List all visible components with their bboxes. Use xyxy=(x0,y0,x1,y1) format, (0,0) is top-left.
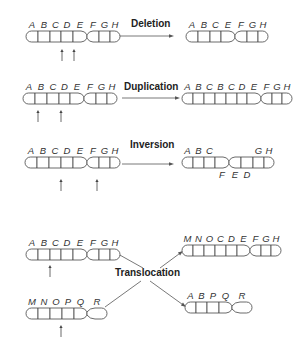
band-C: C xyxy=(210,19,221,42)
band-B: B xyxy=(215,81,226,104)
band-segment xyxy=(196,302,207,313)
band-segment xyxy=(110,31,120,42)
band-segment xyxy=(232,302,252,313)
band-segment xyxy=(61,31,73,42)
band-H: H xyxy=(107,81,117,104)
band-segment xyxy=(271,245,281,256)
band-E: E xyxy=(73,237,87,260)
band-C: C xyxy=(204,145,215,168)
breakpoint-arrow-icon xyxy=(72,49,75,61)
band-F: F xyxy=(87,237,99,260)
band-H: H xyxy=(271,233,281,256)
band-label: C xyxy=(217,233,224,244)
band-segment xyxy=(210,31,221,42)
band-A: A xyxy=(185,290,196,313)
band-label: R xyxy=(239,290,246,301)
band-segment xyxy=(61,249,73,260)
band-segment xyxy=(59,93,70,104)
band-G: G xyxy=(261,233,271,256)
band-D: D xyxy=(237,81,247,104)
band-B: B xyxy=(37,145,49,168)
band-F: F xyxy=(235,19,247,42)
band-D: D xyxy=(59,81,70,104)
duplication-label: Duplication xyxy=(124,81,178,92)
deletion-label: Deletion xyxy=(131,18,170,29)
band-segment xyxy=(193,245,204,256)
band-D: D xyxy=(61,237,73,260)
band-label: D xyxy=(228,233,235,244)
band-segment xyxy=(50,31,61,42)
band-label: E xyxy=(77,145,84,156)
band-segment xyxy=(99,157,110,168)
arrow-icon xyxy=(122,162,174,166)
band-label: Q xyxy=(222,290,230,301)
band-A: A xyxy=(25,145,37,168)
band-label: E xyxy=(251,81,258,92)
band-segment xyxy=(38,249,50,260)
band-segment xyxy=(73,31,87,42)
band-segment xyxy=(182,93,193,104)
band-segment xyxy=(47,93,59,104)
band-label: P xyxy=(210,290,217,301)
band-label: B xyxy=(41,237,48,248)
band-segment xyxy=(247,93,261,104)
band-segment xyxy=(215,245,226,256)
band-label: E xyxy=(74,81,81,92)
band-segment xyxy=(182,245,193,256)
band-label: F xyxy=(264,81,271,92)
band-label: G xyxy=(273,81,280,92)
band-G: G xyxy=(96,81,107,104)
breakpoint-arrow-icon xyxy=(60,49,63,61)
band-label: F xyxy=(87,81,94,92)
band-segment xyxy=(204,93,215,104)
band-segment xyxy=(185,302,196,313)
band-label: M xyxy=(28,296,36,307)
breakpoint-arrow-icon xyxy=(48,265,51,277)
chromosome-translocation-result-1: MNOCDEFGH xyxy=(182,233,281,256)
band-label: G xyxy=(262,233,269,244)
band-B: B xyxy=(198,19,210,42)
band-segment xyxy=(26,249,38,260)
band-segment xyxy=(70,93,84,104)
band-segment xyxy=(73,157,87,168)
breakpoint-arrow-icon xyxy=(95,179,98,191)
band-segment xyxy=(258,31,268,42)
band-H: H xyxy=(258,19,268,42)
band-segment xyxy=(226,245,237,256)
band-label: F xyxy=(219,169,226,180)
band-A: A xyxy=(186,19,198,42)
band-B: B xyxy=(193,145,204,168)
band-C: C xyxy=(49,145,61,168)
band-E: E xyxy=(221,19,235,42)
band-F: F xyxy=(215,157,229,180)
chromosome-mutation-diagram: DeletionABCDEFGHABCEFGHDuplicationABCDEF… xyxy=(0,0,300,350)
band-label: C xyxy=(206,145,213,156)
breakpoint-arrow-icon xyxy=(59,179,62,191)
band-H: H xyxy=(110,145,120,168)
band-label: H xyxy=(112,145,119,156)
band-E: E xyxy=(247,81,261,104)
band-label: E xyxy=(240,233,247,244)
band-label: E xyxy=(232,169,239,180)
operation-inversion: Inversion xyxy=(130,139,174,150)
breakpoint-arrow-icon xyxy=(36,110,39,122)
band-label: B xyxy=(201,19,208,30)
band-segment xyxy=(204,157,215,168)
chromosome-deletion-original: ABCDEFGH xyxy=(26,19,120,61)
band-segment xyxy=(38,31,50,42)
arrow-icon xyxy=(118,254,143,268)
band-label: E xyxy=(77,19,84,30)
band-label: B xyxy=(40,145,47,156)
band-segment xyxy=(87,249,99,260)
band-segment xyxy=(226,93,237,104)
band-H: H xyxy=(264,145,274,168)
band-label: B xyxy=(41,19,48,30)
band-C: C xyxy=(50,19,61,42)
band-O: O xyxy=(204,233,215,256)
band-F: F xyxy=(87,145,99,168)
band-segment xyxy=(37,157,49,168)
band-label: B xyxy=(198,290,205,301)
band-segment xyxy=(215,93,226,104)
band-segment xyxy=(49,157,61,168)
band-M: M xyxy=(26,296,38,319)
